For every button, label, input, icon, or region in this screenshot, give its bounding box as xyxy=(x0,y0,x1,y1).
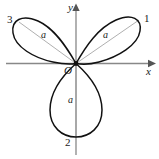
origin-point xyxy=(74,61,79,66)
x-axis-label: x xyxy=(146,66,151,77)
figure-canvas xyxy=(0,0,159,159)
radius-label-petal-bottom: a xyxy=(68,95,73,105)
radial-measure-lines xyxy=(19,20,139,137)
axes-group xyxy=(6,4,156,156)
petal-label-1: 1 xyxy=(144,13,150,24)
petal-left-path xyxy=(13,18,76,64)
radial-line-petal-right xyxy=(76,20,139,64)
petal-label-2: 2 xyxy=(65,137,71,148)
y-axis-label: y xyxy=(68,2,73,13)
origin-label: O xyxy=(64,65,72,76)
radius-label-petal-right: a xyxy=(103,30,108,40)
petal-label-3: 3 xyxy=(7,14,13,25)
y-axis-arrowhead xyxy=(72,4,79,12)
radius-label-petal-left: a xyxy=(41,30,46,40)
polar-rose-figure: y x O 1 2 3 a a a xyxy=(0,0,159,159)
radial-line-petal-left xyxy=(19,22,76,64)
